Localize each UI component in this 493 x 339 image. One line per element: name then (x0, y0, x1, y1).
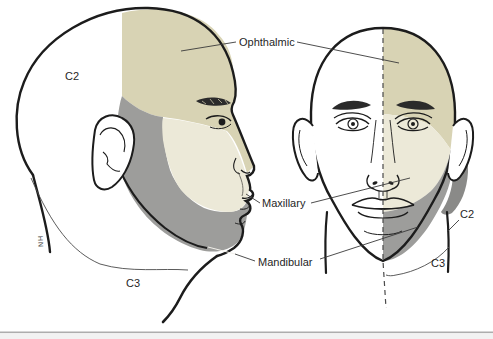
page-edge-strip (0, 334, 493, 339)
label-c3-lateral: C3 (126, 277, 140, 289)
eyebrow-frontal-left (332, 101, 371, 110)
lateral-neck-front-line (163, 256, 217, 322)
eye-lateral-iris (219, 119, 226, 126)
label-maxillary: Maxillary (262, 197, 306, 209)
ear-frontal-left (293, 119, 318, 181)
label-c3-frontal: C3 (431, 257, 445, 269)
label-mandibular: Mandibular (258, 256, 313, 268)
frontal-head-view: C2 C3 (293, 28, 474, 308)
neck-line-frontal-right (447, 212, 449, 272)
diagram-page: C2 C3 HN (0, 0, 493, 339)
label-c2-lateral: C2 (65, 70, 79, 82)
eye-frontal-left (334, 113, 371, 131)
neck-line-frontal-left (325, 212, 327, 273)
trigeminal-dermatome-diagram: C2 C3 HN (0, 0, 493, 339)
page-bottom-edge (0, 332, 493, 339)
lateral-head-view: C2 C3 HN (17, 8, 255, 322)
artist-signature: HN (37, 236, 44, 248)
label-c2-frontal: C2 (460, 208, 474, 220)
label-ophthalmic: Ophthalmic (239, 36, 295, 48)
mandibular-leader-left (235, 254, 255, 261)
page-edge-line (0, 332, 493, 334)
